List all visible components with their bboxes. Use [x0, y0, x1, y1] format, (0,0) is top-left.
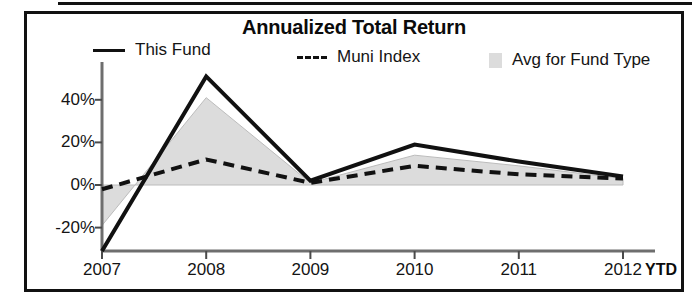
x-axis-ytd-label: YTD [645, 261, 677, 279]
chart-plot-svg [27, 14, 687, 295]
x-axis-tick-label: 2012 [604, 260, 642, 280]
page-top-rule [58, 2, 692, 5]
x-axis-tick-label: 2010 [396, 260, 434, 280]
x-axis-tick-label: 2011 [501, 260, 538, 280]
x-axis-tick-label: 2009 [291, 260, 329, 280]
plot-area [27, 14, 687, 295]
y-axis-tick-label: 40% [33, 90, 95, 110]
x-axis-tick-label: 2008 [187, 260, 225, 280]
y-axis-tick-labels: 40%20%0%-20% [33, 14, 95, 295]
y-axis-tick-label: -20% [33, 218, 95, 238]
y-axis-tick-label: 20% [33, 132, 95, 152]
x-axis-tick-label: 2007 [83, 260, 121, 280]
y-axis-tick-label: 0% [33, 175, 95, 195]
chart-panel: Annualized Total Return This Fund Muni I… [24, 11, 684, 292]
